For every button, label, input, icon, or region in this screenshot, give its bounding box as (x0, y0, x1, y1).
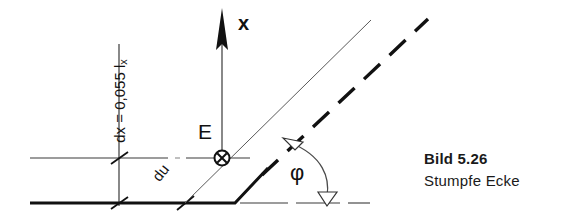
figure-caption-title: Bild 5.26 (424, 150, 488, 167)
dimension-label-dx: dx = 0,055 lx (111, 41, 129, 161)
figure-stumpfe-ecke: x E φ dx = 0,055 lx du Bild 5.26 Stumpfe… (0, 0, 575, 224)
axis-x-arrowhead (216, 8, 228, 50)
thin-diagonal-construction-line (185, 20, 371, 203)
dimension-label-dx-text: dx = 0,055 l (111, 65, 128, 143)
angle-arc-arrowhead-lower (318, 192, 337, 206)
diagram-canvas (0, 0, 575, 224)
figure-caption-subtitle: Stumpfe Ecke (424, 172, 520, 189)
axis-x-label: x (238, 12, 249, 35)
point-E-label: E (198, 120, 212, 144)
dashed-diagonal-edge (262, 19, 428, 175)
dimension-label-dx-subscript: x (117, 59, 129, 65)
angle-phi-label: φ (290, 160, 304, 186)
